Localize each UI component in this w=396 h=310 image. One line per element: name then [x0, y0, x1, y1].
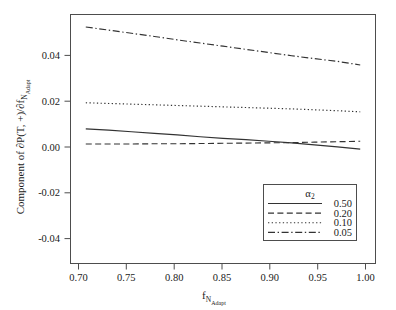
- y-tick-label: 0.04: [42, 50, 61, 61]
- svg-text:Component of ∂P(T, +)/∂fNAdapt: Component of ∂P(T, +)/∂fNAdapt: [14, 79, 31, 214]
- series-line-0.50: [86, 129, 360, 149]
- x-tick-label: 0.75: [117, 272, 135, 283]
- x-tick-label: 0.95: [309, 272, 327, 283]
- x-tick-label: 0.70: [69, 272, 87, 283]
- y-axis-ticks: [65, 55, 71, 238]
- x-axis-title-subsub: Adapt: [211, 300, 226, 306]
- x-tick-label: 0.85: [213, 272, 231, 283]
- legend-label-0.05: 0.05: [334, 227, 352, 238]
- x-tick-label: 1.00: [356, 272, 374, 283]
- data-series-group: [86, 27, 360, 149]
- x-axis-title: fNAdapt: [202, 289, 226, 306]
- x-tick-labels: 0.70 0.75 0.80 0.85 0.90 0.95 1.00: [69, 272, 374, 283]
- series-line-0.10: [86, 103, 360, 112]
- series-line-0.05: [86, 27, 360, 65]
- y-tick-label: -0.04: [38, 233, 61, 244]
- svg-text:fNAdapt: fNAdapt: [202, 289, 226, 306]
- x-tick-label: 0.80: [165, 272, 183, 283]
- x-tick-label: 0.90: [261, 272, 279, 283]
- y-tick-label: 0.02: [42, 96, 60, 107]
- y-tick-label: -0.02: [38, 187, 60, 198]
- series-line-0.20: [86, 141, 360, 144]
- y-axis-title-text: Component of ∂P(T, +)/∂f: [14, 99, 27, 214]
- y-axis-title-subsub: Adapt: [25, 79, 31, 94]
- y-axis-title: Component of ∂P(T, +)/∂fNAdapt: [14, 79, 31, 214]
- y-tick-labels: 0.04 0.02 0.00 -0.02 -0.04: [38, 50, 61, 244]
- chart-canvas: 0.70 0.75 0.80 0.85 0.90 0.95 1.00 0.04 …: [0, 0, 396, 310]
- legend: α2 0.500.200.100.05: [264, 185, 357, 241]
- y-tick-label: 0.00: [42, 142, 60, 153]
- chart-figure: 0.70 0.75 0.80 0.85 0.90 0.95 1.00 0.04 …: [0, 0, 396, 310]
- x-axis-ticks: [79, 264, 366, 270]
